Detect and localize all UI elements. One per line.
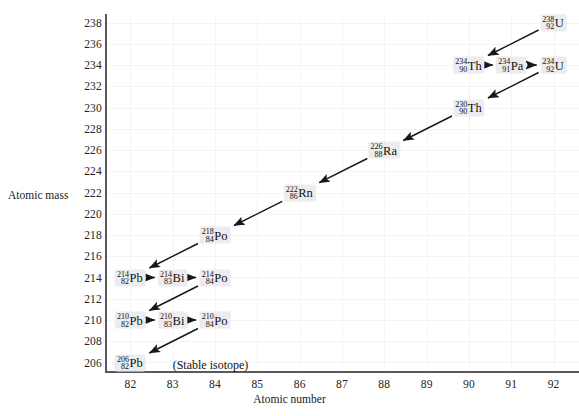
- nuclide-numbers: 22688: [371, 143, 383, 158]
- element-symbol: Th: [468, 58, 482, 72]
- decay-arrow-u238-to-th234: [488, 30, 539, 56]
- isotope-node-pa234: 23491Pa: [496, 57, 526, 74]
- nuclide-numbers: 23492: [542, 58, 554, 73]
- atomic-number: 84: [202, 235, 214, 243]
- decay-arrow-rn222-to-po218: [234, 201, 282, 225]
- isotope-node-pb210: 21082Pb: [115, 312, 146, 329]
- element-symbol: Ra: [383, 143, 397, 157]
- nuclide-numbers: 21483: [160, 270, 172, 285]
- isotope-node-pb206: 20682Pb: [115, 354, 146, 371]
- decay-arrow-po210-to-pb206: [149, 329, 198, 354]
- stable-isotope-annotation: (Stable isotope): [173, 358, 249, 373]
- atomic-number: 88: [371, 150, 383, 158]
- element-symbol: Pb: [130, 313, 143, 327]
- element-symbol: Po: [214, 313, 227, 327]
- nuclide-numbers: 21484: [202, 270, 214, 285]
- nuclide-numbers: 21083: [160, 313, 172, 328]
- atomic-number: 83: [160, 320, 172, 328]
- atomic-number: 84: [202, 278, 214, 286]
- isotope-node-bi210: 21083Bi: [158, 312, 187, 329]
- atomic-number: 92: [542, 23, 554, 31]
- element-symbol: U: [555, 58, 564, 72]
- atomic-number: 83: [160, 278, 172, 286]
- nuclide-numbers: 22286: [286, 185, 298, 200]
- element-symbol: Bi: [173, 271, 185, 285]
- decay-arrow-u234-to-th230: [488, 73, 539, 99]
- element-symbol: U: [555, 16, 564, 30]
- nuclide-numbers: 23490: [455, 58, 467, 73]
- atomic-number: 90: [455, 65, 467, 73]
- nuclide-numbers: 21884: [202, 228, 214, 243]
- nuclide-numbers: 21084: [202, 313, 214, 328]
- isotope-node-po210: 21084Po: [200, 312, 231, 329]
- nuclide-numbers: 23491: [498, 58, 510, 73]
- atomic-number: 91: [498, 65, 510, 73]
- decay-arrow-po218-to-pb214: [149, 244, 198, 269]
- isotope-node-pb214: 21482Pb: [115, 269, 146, 286]
- atomic-number: 90: [455, 108, 467, 116]
- isotope-node-ra226: 22688Ra: [369, 142, 400, 159]
- decay-arrow-ra226-to-rn222: [319, 159, 367, 183]
- element-symbol: Pb: [130, 356, 143, 370]
- element-symbol: Th: [468, 101, 482, 115]
- decay-arrows: [0, 0, 579, 416]
- nuclide-numbers: 21082: [117, 313, 129, 328]
- atomic-number: 86: [286, 193, 298, 201]
- nuclide-numbers: 21482: [117, 270, 129, 285]
- atomic-number: 92: [542, 65, 554, 73]
- atomic-number: 82: [117, 320, 129, 328]
- isotope-node-bi214: 21483Bi: [158, 269, 187, 286]
- atomic-number: 82: [117, 278, 129, 286]
- element-symbol: Pa: [511, 58, 524, 72]
- nuclide-numbers: 23090: [455, 100, 467, 115]
- nuclide-numbers: 23892: [542, 15, 554, 30]
- atomic-number: 82: [117, 363, 129, 371]
- atomic-number: 84: [202, 320, 214, 328]
- decay-arrow-po214-to-pb210: [149, 286, 198, 311]
- element-symbol: Po: [214, 228, 227, 242]
- decay-series-chart: 2062082102122142162182202222242262282302…: [0, 0, 579, 416]
- nuclide-numbers: 20682: [117, 355, 129, 370]
- isotope-node-th234: 23490Th: [453, 57, 484, 74]
- element-symbol: Pb: [130, 271, 143, 285]
- isotope-node-po214: 21484Po: [200, 269, 231, 286]
- isotope-node-th230: 23090Th: [453, 99, 484, 116]
- decay-arrow-th230-to-ra226: [403, 116, 452, 141]
- isotope-node-po218: 21884Po: [200, 227, 231, 244]
- element-symbol: Po: [214, 271, 227, 285]
- element-symbol: Bi: [173, 313, 185, 327]
- isotope-node-rn222: 22286Rn: [284, 184, 316, 201]
- element-symbol: Rn: [298, 186, 313, 200]
- isotope-node-u234: 23492U: [540, 57, 567, 74]
- isotope-node-u238: 23892U: [540, 14, 567, 31]
